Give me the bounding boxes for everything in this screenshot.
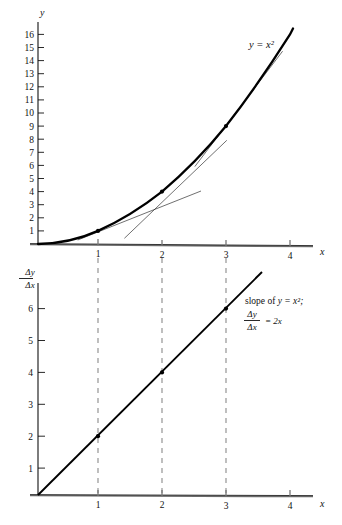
lower-point-2 (160, 370, 164, 374)
lower-xtick-2: 2 (160, 500, 165, 510)
upper-ytick-2: 2 (29, 213, 34, 223)
lower-ytick-3: 3 (28, 400, 33, 410)
lower-y-tick-labels: 1 2 3 4 5 6 (28, 304, 33, 474)
upper-ytick-10: 10 (25, 108, 35, 118)
two-panel-plot: 1 2 3 4 5 6 7 8 9 10 11 12 13 14 15 16 (0, 0, 342, 525)
upper-ytick-12: 12 (25, 82, 35, 92)
lower-point-3 (224, 307, 228, 311)
upper-ytick-9: 9 (29, 122, 34, 132)
lower-y-axis-label: Δy Δx (19, 267, 35, 290)
slope-line (38, 272, 262, 495)
lower-y-ticks (38, 309, 45, 469)
lower-ytick-6: 6 (28, 304, 33, 314)
lower-xtick-1: 1 (96, 500, 101, 510)
upper-x-tick-labels: 1 2 3 4 (96, 249, 293, 261)
upper-ytick-16: 16 (25, 30, 35, 40)
lower-ytick-4: 4 (28, 368, 33, 378)
upper-x-axis-label: x (319, 246, 325, 257)
slope-annotation-frac-denominator: Δx (246, 322, 256, 332)
lower-ytick-1: 1 (28, 464, 33, 474)
lower-x-axis-label: x (319, 498, 325, 509)
upper-ytick-13: 13 (25, 69, 35, 79)
upper-point-1 (96, 229, 100, 233)
lower-x-tick-labels: 1 2 3 4 (96, 500, 293, 511)
parabola-curve (38, 29, 293, 245)
lower-y-axis-label-numerator: Δy (24, 267, 34, 277)
slope-annotation-frac-equals: = 2x (265, 316, 282, 326)
lower-xtick-3: 3 (224, 501, 229, 511)
tangent-line-at-x2 (124, 140, 226, 238)
upper-plot: 1 2 3 4 5 6 7 8 9 10 11 12 13 14 15 16 (25, 7, 326, 261)
upper-y-ticks (38, 34, 44, 231)
upper-ytick-5: 5 (29, 174, 34, 184)
upper-data-points (96, 124, 228, 233)
lower-plot: 1 2 3 4 5 6 1 2 3 4 x (19, 258, 325, 511)
upper-xtick-4: 4 (288, 251, 293, 261)
parabola-label: y = x² (248, 39, 275, 50)
upper-ytick-4: 4 (29, 187, 34, 197)
slope-annotation: slope of y = x²; Δy Δx = 2x (244, 296, 303, 332)
upper-point-2 (160, 190, 164, 194)
lower-point-1 (96, 434, 100, 438)
upper-ytick-11: 11 (25, 95, 34, 105)
upper-point-3 (224, 124, 228, 128)
slope-annotation-frac-numerator: Δy (246, 309, 256, 319)
upper-ytick-1: 1 (29, 226, 34, 236)
figure-container: 1 2 3 4 5 6 7 8 9 10 11 12 13 14 15 16 (0, 0, 342, 525)
tangent-lines (78, 51, 283, 240)
upper-ytick-14: 14 (25, 56, 35, 66)
upper-xtick-1: 1 (96, 249, 101, 259)
lower-ytick-2: 2 (28, 432, 33, 442)
upper-ytick-6: 6 (29, 161, 34, 171)
upper-y-axis-label: y (39, 7, 45, 18)
dashed-connectors (98, 258, 226, 493)
upper-y-tick-labels: 1 2 3 4 5 6 7 8 9 10 11 12 13 14 15 16 (25, 30, 35, 237)
lower-ytick-5: 5 (28, 336, 33, 346)
lower-xtick-4: 4 (288, 501, 293, 511)
upper-ytick-3: 3 (29, 200, 34, 210)
lower-y-axis-label-denominator: Δx (24, 280, 34, 290)
upper-ytick-15: 15 (25, 43, 35, 53)
slope-annotation-line1: slope of y = x²; (245, 296, 303, 306)
upper-ytick-7: 7 (29, 148, 34, 158)
upper-ytick-8: 8 (29, 135, 34, 145)
